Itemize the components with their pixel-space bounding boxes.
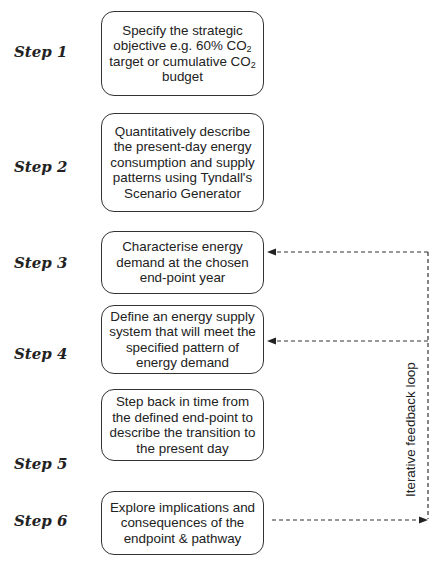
feedback-loop-connectors	[0, 0, 444, 565]
arrowhead-loop-icon	[419, 517, 428, 524]
arrowhead-step-3-icon	[267, 249, 276, 256]
feedback-loop-label: Iterative feedback loop	[403, 362, 418, 497]
arrowhead-step-4-icon	[267, 338, 276, 345]
